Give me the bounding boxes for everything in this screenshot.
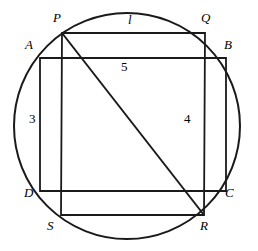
measure-label-side-l: l — [128, 13, 132, 26]
vertex-label-q: Q — [201, 11, 210, 24]
geometry-canvas — [0, 0, 258, 251]
vertex-label-r: R — [200, 219, 208, 232]
vertex-label-p: P — [53, 11, 61, 24]
measure-label-4: 4 — [184, 112, 191, 125]
vertex-label-d: D — [24, 186, 33, 199]
measure-label-5: 5 — [121, 60, 128, 73]
vertex-label-c: C — [225, 186, 234, 199]
measure-label-3: 3 — [29, 112, 36, 125]
diagonal-p-to-r — [62, 33, 204, 215]
circumcircle — [14, 13, 240, 239]
vertex-label-a: A — [25, 38, 33, 51]
geometry-figure: P Q R S A B C D l 3 4 5 — [0, 0, 258, 251]
vertex-label-s: S — [47, 219, 54, 232]
vertex-label-b: B — [224, 38, 232, 51]
